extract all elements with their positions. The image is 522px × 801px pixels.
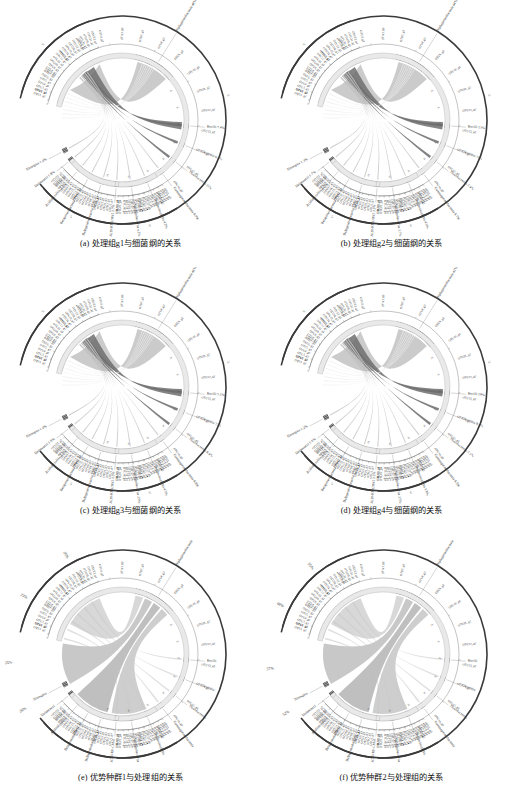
axis-tick-label: 6k — [106, 173, 110, 177]
axis-tick-label: 2k — [146, 169, 150, 173]
axis-tick — [50, 92, 51, 93]
outer-label-Nitrospira: Nitrospira 1.3% — [286, 157, 308, 171]
axis-tick — [329, 708, 330, 709]
otu-name: OTU10_g2 — [448, 65, 462, 76]
otu-name: OTU20_g4 — [383, 734, 387, 748]
otu-name: OTU13_g2 — [462, 128, 477, 134]
axis-tick — [53, 618, 54, 619]
axis-tick-label: 2k — [430, 623, 434, 627]
axis-tick — [162, 184, 163, 185]
group-sector-g3 — [71, 428, 115, 454]
panel-e-canvas: BacilliClostridiaFlavobacteriiaGammaprot… — [0, 534, 261, 774]
panel-d-canvas: Bacilli 19%Clostridia 8.4%Flavobacteriia… — [261, 267, 522, 507]
otu-name: OTU13_g2 — [201, 395, 216, 401]
otu-name: OTU9_g2 — [173, 316, 185, 328]
label-leader-Bacilli — [190, 126, 204, 127]
otu-name: OTU20_g4 — [383, 200, 387, 214]
outer-label-Gammaproteobacteria: Gammaproteobacteria 4.5% — [433, 453, 460, 488]
axis-tick — [351, 583, 352, 584]
group-pct-g3: 57% — [266, 665, 275, 671]
otu-name: OTU9_g2 — [434, 316, 446, 328]
outer-label-Alphaproteobacteria: Alphaproteobacteria — [436, 539, 455, 566]
axis-tick — [419, 454, 420, 455]
axis-tick-label: 0k — [161, 424, 165, 428]
axis-tick — [53, 84, 54, 85]
axis-tick — [148, 458, 149, 460]
ribbon-layer — [62, 596, 182, 714]
otu-name: OTU14_g2 — [457, 681, 472, 690]
axis-tick — [68, 174, 69, 175]
otu-name: OTU11_g2 — [196, 85, 211, 94]
axis-tick — [449, 348, 450, 349]
axis-tick — [343, 320, 344, 321]
otu-name: OTU20_g4 — [122, 734, 126, 748]
otu-name: OTU6_g2 — [120, 295, 124, 308]
label-leader-Deinococci — [318, 696, 329, 705]
axis-tick-label: 4k — [437, 106, 441, 110]
axis-tick — [75, 592, 76, 593]
axis-tick — [334, 446, 335, 447]
otu-name: OTU12_g2 — [201, 374, 216, 379]
axis-tick-label: 0k — [422, 691, 426, 695]
axis-tick — [63, 337, 64, 338]
axis-tick-label: 2k — [407, 169, 411, 173]
label-leader-Nitrospira — [49, 152, 62, 159]
group-outer-arc-g2 — [20, 16, 226, 224]
axis-tick — [148, 725, 149, 727]
axis-tick — [322, 701, 323, 702]
group-pct-g2: 60% — [276, 601, 285, 609]
label-leader-Deinococci — [57, 162, 68, 171]
panel-f-canvas: BacilliClostridiaFlavobacteriiaGammaprot… — [261, 534, 522, 774]
otu-name: OTU8_g2 — [157, 570, 167, 583]
axis-tick — [314, 618, 315, 619]
otu-name: OTU13_g2 — [201, 662, 216, 668]
otu-name: OTU22_g4 — [376, 733, 381, 747]
group-id-label: g4 — [148, 491, 152, 495]
axis-tick — [78, 450, 79, 451]
group-id-label: g4 — [148, 224, 152, 228]
label-leader-Nitrospira — [310, 152, 323, 159]
axis-tick — [53, 351, 54, 352]
axis-tick — [63, 437, 64, 438]
axis-tick — [351, 49, 352, 50]
axis-tick — [90, 316, 91, 317]
outer-label-Nitrospira: Nitrospira 1.2% — [286, 424, 308, 438]
otu-name: OTU11_g2 — [196, 352, 211, 361]
axis-tick — [442, 167, 443, 168]
axis-tick-label: 2k — [407, 703, 411, 707]
axis-tick — [414, 723, 415, 724]
otu-name: OTU7_g2 — [138, 29, 145, 42]
otu-name: OTU8_g2 — [157, 36, 167, 49]
label-leader-Flavobacteriia — [176, 162, 187, 171]
group-id-label: g3 — [330, 214, 334, 218]
group-pct-g4: 26% — [18, 705, 27, 713]
axis-tick — [329, 441, 330, 442]
axis-tick — [314, 351, 315, 352]
group-id-label: g2 — [227, 360, 231, 364]
axis-tick — [68, 708, 69, 709]
axis-tick — [162, 718, 163, 719]
otu-name: OTU6_g2 — [381, 562, 385, 575]
chord-diagram-d: Bacilli 19%Clostridia 8.4%Flavobacteriia… — [261, 267, 522, 507]
axis-tick — [155, 317, 156, 318]
axis-tick-label: 4k — [176, 106, 180, 110]
axis-tick — [324, 70, 325, 71]
otu-name: OTU6_g2 — [120, 562, 124, 575]
axis-tick — [188, 348, 189, 349]
axis-tick — [423, 451, 424, 452]
axis-tick-label: 2k — [146, 436, 150, 440]
axis-tick — [334, 713, 335, 714]
otu-name: OTU14_g2 — [457, 414, 472, 423]
figure-grid: Bacilli 7.4%Clostridia 6.5%Flavobacterii… — [0, 0, 522, 801]
otu-name: OTU6_g2 — [120, 28, 124, 41]
otu-name: OTU22_g4 — [115, 199, 120, 213]
otu-name: OTU10_g2 — [187, 65, 201, 76]
otu-name: OTU9_g2 — [434, 583, 446, 595]
group-sector-g3 — [71, 161, 115, 187]
axis-tick — [58, 344, 59, 345]
axis-tick — [78, 717, 79, 718]
label-leader-Gammaproteobacteria — [163, 709, 172, 721]
group-axis-g2 — [48, 44, 198, 196]
axis-tick — [158, 454, 159, 455]
axis-tick — [314, 84, 315, 85]
